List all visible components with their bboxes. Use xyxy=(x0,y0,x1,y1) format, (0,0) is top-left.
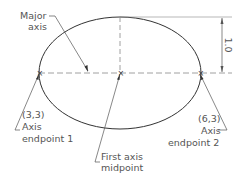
midpoint-marker: × xyxy=(118,69,125,78)
major-axis-leader xyxy=(49,16,88,71)
major-axis-label-line1: Major xyxy=(20,10,46,21)
dimension-arrow-bottom xyxy=(221,66,224,72)
endpoint1-label-line2: endpoint 1 xyxy=(22,133,73,144)
midpoint-label-line2: midpoint xyxy=(101,162,143,173)
midpoint-label-line1: First axis xyxy=(101,151,143,162)
dimension-label: 1.0 xyxy=(223,37,234,52)
ellipse-diagram: 1.0 × × × Major axis (3,3) Axis endpoint… xyxy=(0,0,240,178)
endpoint1-label-line1: Axis xyxy=(22,121,42,132)
major-axis-label-line2: axis xyxy=(28,21,47,32)
endpoint1-coord: (3,3) xyxy=(22,109,45,120)
midpoint-leader xyxy=(95,74,120,162)
endpoint2-label-line1: Axis xyxy=(201,125,221,136)
dimension-arrow-top xyxy=(221,18,224,24)
endpoint2-coord: (6,3) xyxy=(198,113,221,124)
endpoint2-label-line2: endpoint 2 xyxy=(168,137,219,148)
